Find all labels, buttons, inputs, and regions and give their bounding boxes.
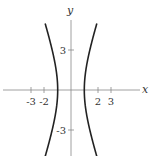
x-axis-label: x: [142, 83, 149, 96]
x-tick-label: -2: [39, 96, 49, 107]
x-tick-label: -3: [26, 96, 36, 107]
y-axis-label: y: [66, 4, 74, 17]
y-tick-label: 3: [60, 45, 66, 56]
y-tick-label: -3: [56, 125, 66, 136]
x-tick-label: 3: [108, 96, 114, 107]
x-tick-label: 2: [95, 96, 101, 107]
hyperbola-graph: -3 -2 2 3 3 -3 y x: [0, 0, 153, 156]
